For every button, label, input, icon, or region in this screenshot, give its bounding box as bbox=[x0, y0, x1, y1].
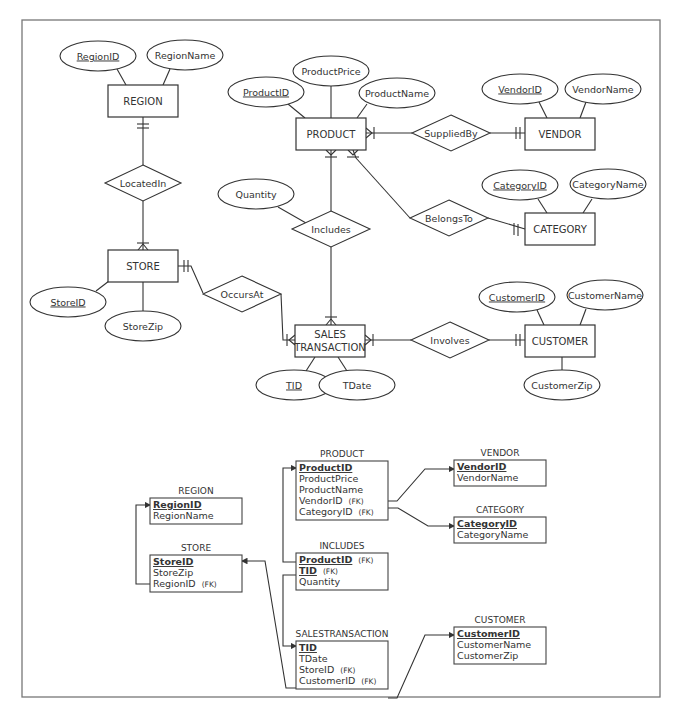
table-field: CategoryID(FK) bbox=[299, 506, 374, 517]
table-field: VendorID(FK) bbox=[299, 495, 364, 506]
table-field: CustomerID(FK) bbox=[299, 675, 376, 686]
attribute-label: CategoryName bbox=[572, 179, 644, 190]
fk-marker: (FK) bbox=[323, 567, 338, 576]
primary-key-field: ProductID bbox=[299, 462, 352, 473]
key-attribute-label: StoreID bbox=[50, 297, 85, 308]
table-field: CustomerName bbox=[457, 639, 531, 650]
attribute-customerzip: CustomerZip bbox=[524, 370, 600, 400]
fk-marker: (FK) bbox=[349, 497, 364, 506]
table-field: RegionID(FK) bbox=[153, 578, 217, 589]
table-title: STORE bbox=[181, 543, 212, 553]
fk-marker: (FK) bbox=[358, 556, 373, 565]
key-attribute-label: VendorID bbox=[498, 84, 542, 95]
attribute-quantity: Quantity bbox=[218, 179, 294, 209]
table-field: RegionName bbox=[153, 510, 214, 521]
table-field: TDate bbox=[298, 653, 328, 664]
table-region: REGIONRegionIDRegionName bbox=[150, 486, 242, 524]
table-product: PRODUCTProductIDProductPriceProductNameV… bbox=[296, 449, 388, 520]
attribute-label: ProductName bbox=[365, 88, 429, 99]
attribute-label: TDate bbox=[342, 380, 372, 391]
relationship-includes: Includes bbox=[292, 211, 370, 247]
relationship-locatedin: LocatedIn bbox=[105, 165, 181, 201]
table-includes: INCLUDESProductID(FK)TID(FK)Quantity bbox=[296, 541, 388, 590]
relationship-belongsto: BelongsTo bbox=[410, 200, 488, 236]
table-field: ProductPrice bbox=[299, 473, 358, 484]
key-attribute-label: CustomerID bbox=[489, 292, 545, 303]
entity-label: PRODUCT bbox=[307, 129, 357, 140]
entity-sales-transaction: SALESTRANSACTION bbox=[293, 325, 366, 357]
relationship-occursat: OccursAt bbox=[203, 276, 281, 312]
entity-region: REGION bbox=[108, 85, 178, 117]
primary-key-field: RegionID bbox=[153, 499, 202, 510]
entity-label-line2: TRANSACTION bbox=[293, 342, 366, 353]
table-title: PRODUCT bbox=[320, 449, 365, 459]
attribute-label: RegionName bbox=[155, 50, 216, 61]
attribute-label: VendorName bbox=[572, 84, 634, 95]
relationship-suppliedby: SuppliedBy bbox=[412, 115, 490, 151]
primary-key-field: VendorID bbox=[457, 461, 507, 472]
table-field: VendorName bbox=[457, 472, 519, 483]
table-field: Quantity bbox=[299, 576, 340, 587]
attribute-storeid: StoreID bbox=[30, 287, 106, 317]
primary-key-field: ProductID(FK) bbox=[299, 554, 374, 565]
fk-marker: (FK) bbox=[361, 677, 376, 686]
table-category: CATEGORYCategoryIDCategoryName bbox=[454, 505, 546, 543]
attribute-label: StoreZip bbox=[123, 321, 163, 332]
schema-tables: REGIONRegionIDRegionNameSTOREStoreIDStor… bbox=[150, 448, 546, 689]
entity-label: CATEGORY bbox=[533, 224, 587, 235]
attribute-label: ProductPrice bbox=[301, 66, 360, 77]
entity-label: SALES bbox=[314, 329, 346, 340]
entity-category: CATEGORY bbox=[525, 213, 595, 245]
entity-product: PRODUCT bbox=[296, 118, 366, 150]
attribute-customerid: CustomerID bbox=[479, 282, 555, 312]
table-store: STOREStoreIDStoreZipRegionID(FK) bbox=[150, 543, 242, 592]
table-field: StoreID(FK) bbox=[299, 664, 355, 675]
relationship-label: Includes bbox=[311, 224, 351, 235]
table-salestransaction: SALESTRANSACTIONTIDTDateStoreID(FK)Custo… bbox=[296, 629, 389, 689]
entity-label: REGION bbox=[123, 96, 162, 107]
fk-marker: (FK) bbox=[202, 580, 217, 589]
attribute-vendorname: VendorName bbox=[565, 74, 641, 104]
fk-marker: (FK) bbox=[359, 508, 374, 517]
attribute-customername: CustomerName bbox=[567, 280, 643, 310]
table-field: CustomerZip bbox=[457, 650, 518, 661]
relationship-label: OccursAt bbox=[221, 289, 264, 300]
relationship-involves: Involves bbox=[411, 322, 489, 358]
entity-vendor: VENDOR bbox=[525, 118, 595, 150]
key-attribute-label: RegionID bbox=[77, 51, 120, 62]
er-diagram-canvas: REGIONPRODUCTVENDORCATEGORYSTORESALESTRA… bbox=[0, 0, 673, 714]
primary-key-field: TID bbox=[299, 642, 317, 653]
attribute-regionid: RegionID bbox=[60, 41, 136, 71]
table-title: REGION bbox=[178, 486, 213, 496]
attribute-tdate: TDate bbox=[319, 370, 395, 400]
relationship-label: SuppliedBy bbox=[424, 128, 478, 139]
entity-customer: CUSTOMER bbox=[525, 325, 595, 357]
attribute-productname: ProductName bbox=[359, 78, 435, 108]
table-title: SALESTRANSACTION bbox=[296, 629, 389, 639]
table-field: ProductName bbox=[299, 484, 363, 495]
key-attribute-label: TID bbox=[285, 380, 302, 391]
entity-label: CUSTOMER bbox=[532, 336, 589, 347]
fk-marker: (FK) bbox=[340, 666, 355, 675]
attribute-categoryname: CategoryName bbox=[570, 169, 646, 199]
attribute-vendorid: VendorID bbox=[482, 74, 558, 104]
entity-label: STORE bbox=[126, 261, 160, 272]
table-customer: CUSTOMERCustomerIDCustomerNameCustomerZi… bbox=[454, 615, 546, 664]
table-title: INCLUDES bbox=[319, 541, 364, 551]
entity-store: STORE bbox=[108, 250, 178, 282]
table-title: CATEGORY bbox=[476, 505, 525, 515]
attribute-label: Quantity bbox=[235, 189, 276, 200]
attribute-categoryid: CategoryID bbox=[482, 170, 558, 200]
attribute-label: CustomerName bbox=[568, 290, 642, 301]
table-field: StoreZip bbox=[153, 567, 193, 578]
attribute-storezip: StoreZip bbox=[105, 311, 181, 341]
primary-key-field: CustomerID bbox=[457, 628, 520, 639]
table-title: VENDOR bbox=[481, 448, 520, 458]
entity-label: VENDOR bbox=[538, 129, 581, 140]
relationship-label: LocatedIn bbox=[120, 178, 166, 189]
attribute-productid: ProductID bbox=[228, 77, 304, 107]
key-attribute-label: CategoryID bbox=[493, 180, 547, 191]
attribute-label: CustomerZip bbox=[531, 380, 592, 391]
table-title: CUSTOMER bbox=[475, 615, 526, 625]
table-vendor: VENDORVendorIDVendorName bbox=[454, 448, 546, 486]
